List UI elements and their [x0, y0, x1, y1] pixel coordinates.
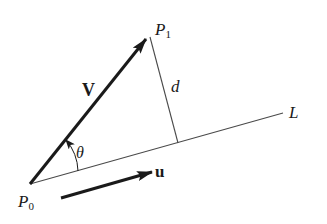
- vector-u: [61, 172, 152, 198]
- label-P0: P0: [17, 192, 34, 212]
- distance-diagram: P1 P0 V u d L θ: [0, 0, 327, 224]
- label-V: V: [82, 80, 95, 100]
- label-d: d: [171, 77, 180, 96]
- label-L: L: [288, 103, 298, 122]
- label-P1: P1: [154, 20, 171, 40]
- label-u: u: [155, 162, 164, 181]
- label-theta: θ: [76, 144, 84, 161]
- vector-V: [30, 39, 146, 184]
